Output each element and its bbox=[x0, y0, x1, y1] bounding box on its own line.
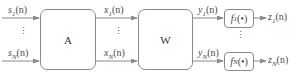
label-arg: (•) bbox=[237, 13, 247, 24]
mixed-label-xN: xN(n) bbox=[104, 48, 125, 62]
output-label-z1: z1(n) bbox=[268, 12, 287, 26]
label-arg: (n) bbox=[17, 47, 29, 58]
block-label: A bbox=[64, 34, 72, 46]
output-label-zN: zN(n) bbox=[268, 55, 288, 69]
separated-label-yN: yN(n) bbox=[198, 48, 219, 62]
mixing-block-a: A bbox=[40, 9, 96, 70]
label-arg: (n) bbox=[112, 4, 124, 15]
label-arg: (n) bbox=[206, 4, 218, 15]
separation-block-w: W bbox=[138, 9, 193, 70]
nonlinear-ellipsis: ⋮ bbox=[236, 33, 242, 37]
mixed-label-x1: x1(n) bbox=[104, 5, 124, 19]
label-arg: (n) bbox=[207, 47, 219, 58]
input-label-sN: sN(n) bbox=[8, 48, 28, 62]
label-arg: (n) bbox=[15, 4, 27, 15]
label-arg: (n) bbox=[113, 47, 125, 58]
label-arg: (•) bbox=[238, 56, 248, 67]
separated-label-y1: y1(n) bbox=[198, 5, 218, 19]
mixed-ellipsis: ⋮ bbox=[114, 29, 120, 33]
nonlinear-block-fN: fN(•) bbox=[224, 52, 254, 71]
block-label: W bbox=[160, 34, 170, 46]
nonlinear-block-f1: f1(•) bbox=[224, 9, 254, 28]
input-ellipsis: ⋮ bbox=[19, 29, 25, 33]
label-arg: (n) bbox=[275, 11, 287, 22]
label-arg: (n) bbox=[277, 54, 289, 65]
input-label-s1: s1(n) bbox=[8, 5, 27, 19]
